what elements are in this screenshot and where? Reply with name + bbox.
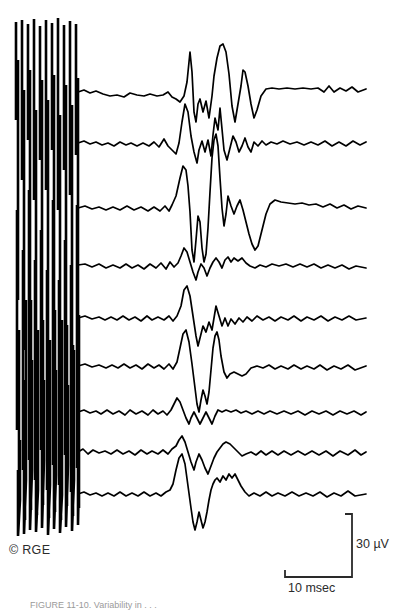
scale-bar-vertical-label: 30 µV (356, 537, 389, 551)
stimulus-artifact-11 (76, 24, 79, 525)
copyright-credit: © RGE (9, 543, 50, 557)
scale-bar-horizontal-label: 10 msec (288, 581, 335, 595)
figure-caption: FIGURE 11-10. Variability in . . . (30, 600, 390, 610)
